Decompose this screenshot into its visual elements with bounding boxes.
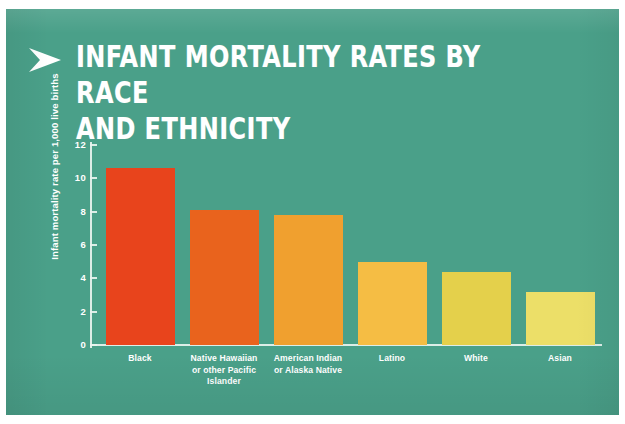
y-tick-label-8: 8 <box>62 206 86 217</box>
screenshot-root: INFANT MORTALITY RATES BY RACE AND ETHNI… <box>0 0 625 424</box>
y-tick-label-6: 6 <box>62 239 86 250</box>
category-label-1: Black <box>100 353 180 365</box>
y-tick-4 <box>90 277 97 279</box>
y-tick-10 <box>90 177 97 179</box>
category-label-line: Black <box>100 353 180 365</box>
bar-6[interactable] <box>526 292 595 345</box>
bar-3[interactable] <box>274 215 343 345</box>
y-tick-12 <box>90 144 97 146</box>
category-label-line: Islander <box>184 376 264 388</box>
category-label-5: White <box>436 353 516 365</box>
bar-chart: Infant mortality rate per 1,000 live bir… <box>6 9 619 415</box>
bar-1[interactable] <box>106 168 175 345</box>
category-label-line: Asian <box>520 353 600 365</box>
y-axis-title: Infant mortality rate per 1,000 live bir… <box>49 62 60 272</box>
category-label-line: White <box>436 353 516 365</box>
category-label-line: American Indian <box>268 353 348 365</box>
category-label-line: Native Hawaiian <box>184 353 264 365</box>
bar-5[interactable] <box>442 272 511 345</box>
y-tick-label-10: 10 <box>62 172 86 183</box>
category-label-line: or other Pacific <box>184 365 264 377</box>
category-label-line: Latino <box>352 353 432 365</box>
y-tick-2 <box>90 311 97 313</box>
bar-2[interactable] <box>190 210 259 345</box>
y-tick-0 <box>90 344 97 346</box>
category-label-line: or Alaska Native <box>268 365 348 377</box>
category-label-3: American Indianor Alaska Native <box>268 353 348 376</box>
y-tick-label-4: 4 <box>62 272 86 283</box>
category-label-6: Asian <box>520 353 600 365</box>
bar-4[interactable] <box>358 262 427 345</box>
category-label-2: Native Hawaiianor other PacificIslander <box>184 353 264 388</box>
y-tick-6 <box>90 244 97 246</box>
y-tick-label-12: 12 <box>62 139 86 150</box>
y-tick-label-0: 0 <box>62 339 86 350</box>
y-tick-label-2: 2 <box>62 306 86 317</box>
category-label-4: Latino <box>352 353 432 365</box>
y-tick-8 <box>90 211 97 213</box>
infographic-card: INFANT MORTALITY RATES BY RACE AND ETHNI… <box>6 9 619 415</box>
